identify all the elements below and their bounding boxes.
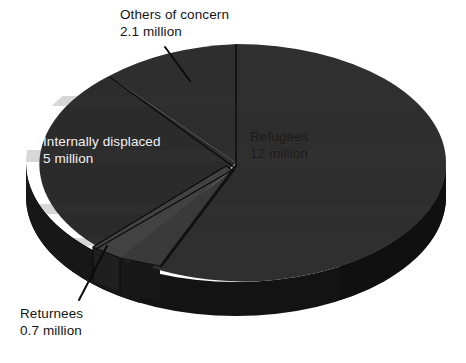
slice-label-refugees: Refugees 12 million: [250, 128, 309, 162]
slice-label-internally-displaced-name: Internally displaced: [43, 134, 161, 149]
slice-label-internally-displaced: Internally displaced 5 million: [43, 133, 161, 167]
slice-label-returnees: Returnees 0.7 million: [20, 305, 83, 339]
slice-label-returnees-name: Returnees: [20, 306, 83, 321]
slice-label-refugees-name: Refugees: [250, 129, 309, 144]
slice-label-others-of-concern: Others of concern 2.1 million: [120, 6, 229, 40]
slice-label-others-of-concern-name: Others of concern: [120, 7, 229, 22]
slice-label-refugees-value: 12 million: [250, 145, 309, 162]
slice-label-internally-displaced-value: 5 million: [43, 150, 161, 167]
slice-label-returnees-value: 0.7 million: [20, 322, 83, 339]
slice-label-others-of-concern-value: 2.1 million: [120, 23, 229, 40]
pie-chart: Others of concern 2.1 million Refugees 1…: [0, 0, 466, 363]
